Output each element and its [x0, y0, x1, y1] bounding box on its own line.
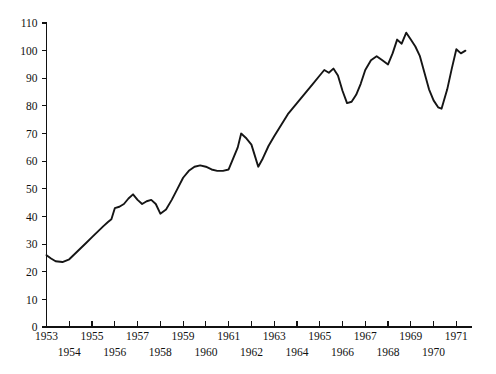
y-tick-label: 80 — [26, 100, 38, 112]
x-tick-label: 1961 — [217, 330, 240, 342]
x-tick-label: 1960 — [194, 346, 217, 358]
chart-plot-area: 0102030405060708090100110 19531954195519… — [0, 0, 496, 374]
x-tick-label: 1965 — [308, 330, 331, 342]
x-tick-label: 1970 — [422, 346, 445, 358]
x-tick-label: 1968 — [377, 346, 400, 358]
y-tick-label: 30 — [26, 238, 38, 250]
x-tick-label: 1959 — [172, 330, 195, 342]
x-tick-label: 1969 — [399, 330, 422, 342]
y-tick-label: 110 — [21, 17, 38, 29]
y-tick-label: 100 — [20, 45, 38, 57]
y-tick-label: 50 — [26, 183, 38, 195]
x-tick-label: 1956 — [103, 346, 126, 358]
y-tick-label: 10 — [26, 294, 38, 306]
y-tick-label: 90 — [26, 72, 38, 84]
line-chart-figure: 0102030405060708090100110 19531954195519… — [0, 0, 496, 374]
x-tick-label: 1962 — [240, 346, 263, 358]
x-tick-label: 1971 — [445, 330, 468, 342]
y-tick-label: 60 — [26, 155, 38, 167]
x-tick-label: 1954 — [58, 346, 81, 358]
y-tick-label: 70 — [26, 128, 38, 140]
chart-background — [0, 0, 496, 374]
x-tick-label: 1963 — [263, 330, 286, 342]
x-tick-label: 1958 — [149, 346, 172, 358]
x-tick-label: 1957 — [126, 330, 149, 342]
x-tick-label: 1967 — [354, 330, 377, 342]
x-tick-label: 1964 — [285, 346, 308, 358]
x-tick-label: 1966 — [331, 346, 354, 358]
x-tick-label: 1953 — [35, 330, 58, 342]
x-tick-label: 1955 — [81, 330, 104, 342]
y-tick-label: 20 — [26, 266, 38, 278]
y-tick-label: 40 — [26, 211, 38, 223]
